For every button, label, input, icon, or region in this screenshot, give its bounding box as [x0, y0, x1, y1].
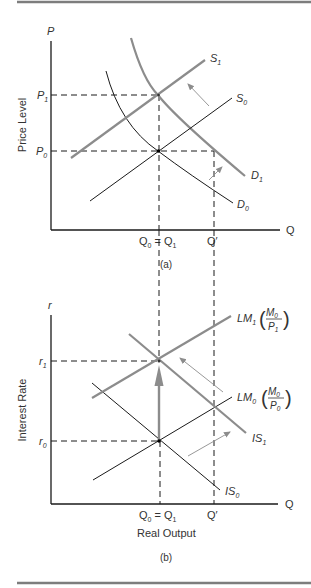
tick-r1: r1 — [39, 355, 47, 369]
svg-text:M0: M0 — [268, 386, 280, 398]
label-lm1: LM1 ( M0 P1 ) — [237, 307, 290, 333]
tick-q0-eq-q1-b: Q0=Q1 — [139, 509, 176, 523]
svg-text:): ) — [285, 387, 292, 409]
panel-a: P Price Level Q P1 P0 Q0=Q1 Q′ S1 S0 D1 … — [16, 25, 295, 270]
panel-a-y-title: Price Level — [16, 98, 28, 152]
label-d0: D0 — [237, 198, 249, 212]
equilibrium-p1 — [157, 94, 160, 97]
label-s0: S0 — [236, 92, 247, 106]
tick-qprime-b: Q′ — [207, 509, 218, 521]
lm0-curve — [93, 397, 232, 480]
label-d1: D1 — [251, 169, 263, 183]
panel-a-y-symbol: P — [47, 25, 55, 37]
equilibrium-p0 — [157, 149, 161, 153]
tick-p0: P0 — [36, 145, 47, 159]
panel-b-x-title: Real Output — [137, 527, 196, 539]
label-s1: S1 — [210, 52, 221, 66]
supply-shift-arrow — [188, 84, 209, 106]
label-is0: IS0 — [225, 485, 239, 499]
equilibrium-r1 — [158, 360, 161, 363]
lm-shift-arrow — [180, 358, 223, 392]
d1-curve — [131, 38, 245, 176]
svg-text:M0: M0 — [266, 307, 278, 319]
panel-b-caption: (b) — [160, 552, 172, 563]
panel-a-caption: (a) — [160, 259, 172, 270]
s0-curve — [90, 98, 232, 201]
svg-text:(: ( — [259, 308, 266, 330]
panel-a-x-symbol: Q — [286, 224, 295, 236]
svg-text:P1: P1 — [268, 321, 279, 333]
s1-curve — [71, 60, 205, 158]
tick-p1: P1 — [37, 89, 48, 103]
interest-rise-arrow-head — [155, 365, 164, 386]
is1-curve — [129, 334, 246, 433]
svg-text:(: ( — [261, 387, 268, 409]
svg-text:LM1: LM1 — [237, 312, 256, 326]
svg-text:): ) — [283, 308, 290, 330]
label-lm0: LM0 ( M0 P0 ) — [237, 386, 292, 412]
equilibrium-r0 — [157, 439, 161, 443]
panel-b: r Interest Rate Q r1 r0 Q0=Q1 Q′ Real Ou… — [16, 299, 294, 563]
is-shift-arrow — [188, 432, 230, 456]
is0-curve — [92, 383, 220, 490]
svg-text:P0: P0 — [270, 400, 281, 412]
tick-qprime-a: Q′ — [207, 235, 218, 247]
demand-shift-arrow — [209, 167, 222, 180]
tick-q0-eq-q1-a: Q0=Q1 — [139, 235, 176, 249]
panel-b-y-symbol: r — [48, 299, 53, 311]
panel-b-x-symbol: Q — [285, 498, 294, 510]
svg-text:LM0: LM0 — [237, 391, 256, 405]
tick-r0: r0 — [39, 435, 47, 449]
panel-b-y-title: Interest Rate — [16, 379, 28, 442]
label-is1: IS1 — [252, 432, 266, 446]
ad-as-islm-diagram: P Price Level Q P1 P0 Q0=Q1 Q′ S1 S0 D1 … — [0, 0, 311, 588]
